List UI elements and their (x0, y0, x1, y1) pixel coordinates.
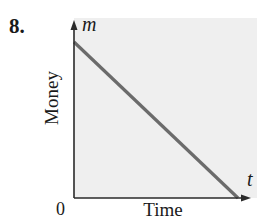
y-axis-label: Money (41, 71, 63, 125)
x-axis-variable: t (247, 168, 253, 191)
y-axis-variable: m (82, 13, 96, 36)
plot-area (74, 18, 257, 198)
line-chart (0, 0, 264, 223)
origin-label: 0 (56, 199, 65, 220)
x-axis-label: Time (143, 199, 182, 221)
